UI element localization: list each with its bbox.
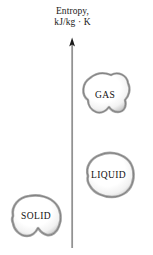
axis-label-line1: Entropy, (56, 6, 89, 16)
solid-blob-label: SOLID (8, 190, 64, 242)
phase-blob-gas: GAS (80, 70, 132, 122)
phase-blob-solid: SOLID (8, 192, 64, 244)
liquid-blob-label: LIQUID (81, 148, 136, 202)
phase-blob-liquid: LIQUID (82, 150, 137, 204)
entropy-phase-diagram: Entropy, kJ/kg · K GAS (0, 0, 153, 255)
axis-line (71, 41, 73, 248)
axis-label-line2: kJ/kg · K (0, 17, 145, 28)
axis-label: Entropy, kJ/kg · K (0, 6, 145, 28)
axis-arrowhead (69, 38, 75, 47)
gas-blob-label: GAS (79, 69, 131, 121)
